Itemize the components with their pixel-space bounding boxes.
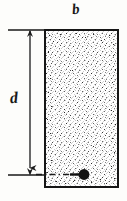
- beam-cross-section-figure: b d: [0, 0, 127, 201]
- width-label-b: b: [71, 2, 80, 18]
- section-stipple: [45, 30, 118, 187]
- concrete-section: [45, 30, 118, 187]
- figure-canvas: [0, 0, 127, 201]
- rebar-dot-icon: [79, 169, 90, 180]
- depth-label-d: d: [9, 90, 18, 107]
